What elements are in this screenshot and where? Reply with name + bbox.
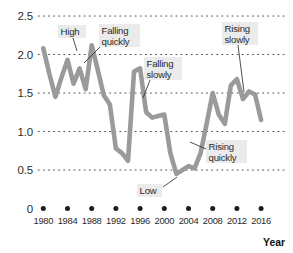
y-tick-label: 1.5	[18, 87, 33, 99]
x-tick-dot	[89, 206, 94, 211]
x-tick-dot	[41, 206, 46, 211]
y-tick-label: 1.0	[18, 126, 33, 138]
x-tick-label: 2004	[179, 215, 199, 226]
y-tick-label: 2.5	[18, 10, 33, 22]
y-axis-labels: 00.51.01.52.02.5	[18, 10, 33, 215]
annotation-leader-line	[73, 38, 77, 51]
x-tick-dot	[210, 206, 215, 211]
chart-container: 00.51.01.52.02.5198019841988199219962000…	[0, 0, 293, 253]
annotation-label: slowly	[147, 69, 172, 80]
annotation-label: High	[61, 26, 80, 37]
annotation-label: slowly	[225, 34, 250, 45]
annotation-label: Falling	[102, 25, 129, 36]
x-tick-label: 2016	[251, 215, 271, 226]
y-tick-label: 0	[27, 203, 33, 215]
x-tick-label: 1988	[82, 215, 102, 226]
annotation-label: quickly	[209, 152, 237, 163]
x-tick-dot	[65, 206, 70, 211]
x-tick-label: 1996	[130, 215, 150, 226]
x-tick-dot	[186, 206, 191, 211]
annotation-label: Falling	[147, 58, 174, 69]
y-tick-label: 0.5	[18, 164, 33, 176]
annotation-label: Low	[140, 185, 157, 196]
x-tick-dot	[234, 206, 239, 211]
x-tick-label: 1992	[106, 215, 126, 226]
x-tick-label: 1980	[33, 215, 53, 226]
annotation-label: quickly	[102, 36, 130, 47]
x-axis: 1980198419881992199620002004200820122016	[33, 206, 271, 226]
annotation-leader-line	[163, 177, 177, 187]
x-tick-dot	[138, 206, 143, 211]
y-tick-label: 2.0	[18, 49, 33, 61]
annotation-label: Rising	[209, 141, 234, 152]
x-tick-label: 2000	[154, 215, 174, 226]
x-axis-title: Year	[263, 237, 285, 248]
x-tick-label: 1984	[58, 215, 78, 226]
x-tick-label: 2008	[203, 215, 223, 226]
x-tick-dot	[113, 206, 118, 211]
x-tick-dot	[162, 206, 167, 211]
x-tick-dot	[259, 206, 264, 211]
line-chart: 00.51.01.52.02.5198019841988199219962000…	[0, 0, 293, 253]
annotation-label: Rising	[225, 23, 250, 34]
x-tick-label: 2012	[227, 215, 247, 226]
